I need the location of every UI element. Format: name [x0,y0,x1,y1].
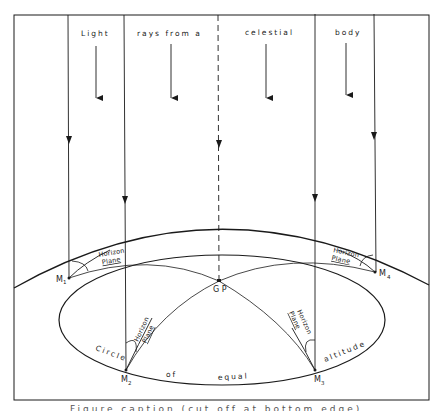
horizon-plane-label-m1: Horizon Plane [98,247,127,267]
horizon-plane-m3 [292,328,315,370]
angle-arc-m1 [72,261,88,271]
arrowhead-icon [66,136,72,144]
arrowhead-icon [371,132,377,140]
label-m2: M [121,375,128,384]
angle-arc-m4 [360,255,373,266]
label-m1-sub: 1 [63,279,67,285]
horizon-plane-label-m3: Horizon Plane [287,307,313,339]
point-gp [217,279,221,282]
light-ray-m1 [68,15,69,278]
label-m3-sub: 3 [321,380,325,386]
arrowhead-icon [216,140,222,148]
circle-of-equal-altitude [59,255,385,385]
light-ray-m4 [374,14,376,272]
label-m4-sub: 4 [387,274,391,280]
label-altitude: altitude [322,339,367,364]
point-m1 [68,277,71,280]
label-body: body [335,28,362,37]
label-gp: G P [213,285,227,294]
angle-arc-m2 [126,340,136,352]
label-rays-from-a: rays from a [137,29,202,38]
arrowhead-icon [122,196,128,204]
label-light: Light [81,29,110,38]
label-celestial: celestial [245,28,294,37]
label-m2-sub: 2 [128,380,132,386]
point-m2 [125,369,128,372]
label-m1: M [56,275,63,284]
circle-of-equal-altitude-diagram: Light rays from a celestial body M 1 M 2… [0,0,441,411]
earth-surface-arc [14,229,429,288]
arrowhead-icon [312,194,318,202]
label-of: of [166,370,177,379]
label-equal: equal [218,371,249,382]
light-ray-m2 [124,15,126,370]
diagram-frame [14,15,429,400]
point-m4 [374,271,377,274]
figure-caption-clipped: Figure caption (cut off at bottom edge) [70,404,362,411]
horizon-plane-label-m4: Horizon Plane [331,246,360,267]
point-m3 [314,369,317,372]
label-circle: Circle [94,343,128,363]
label-m4: M [379,269,386,278]
horizon-plane-label-m2: Horizon Plane [133,316,159,347]
light-ray-gp [218,15,219,281]
angle-arc-m3 [305,340,315,352]
label-m3: M [314,375,321,384]
